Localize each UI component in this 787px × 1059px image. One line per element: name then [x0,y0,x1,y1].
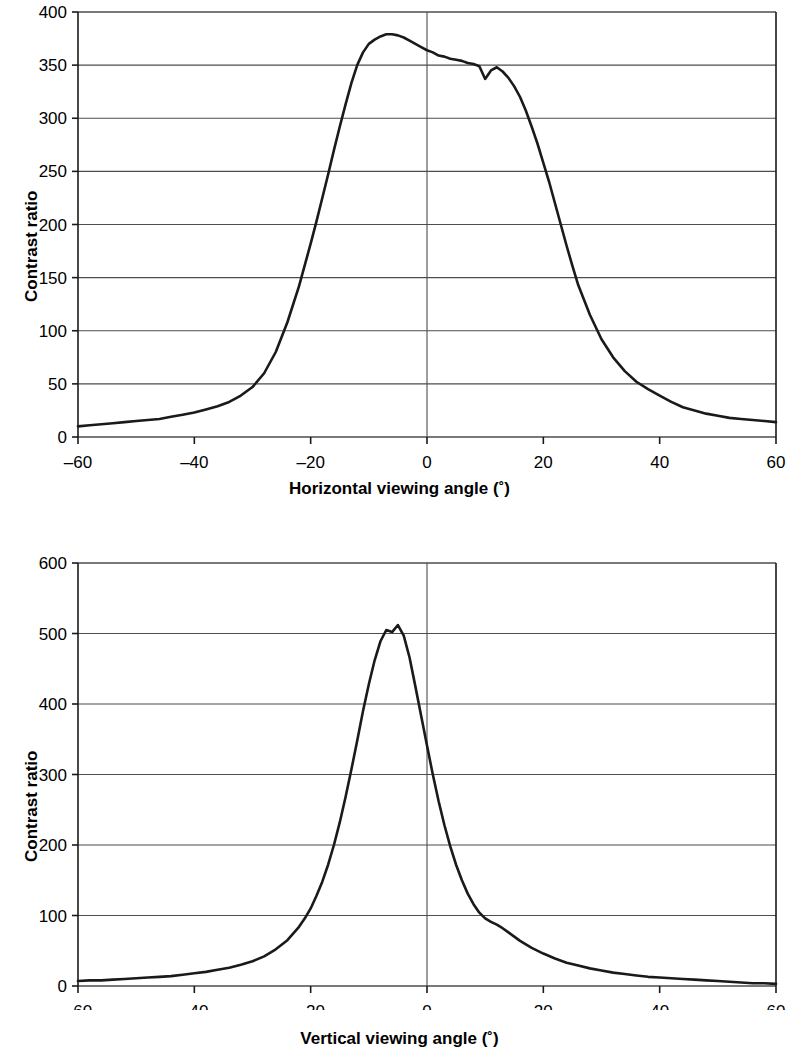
y-tick-label: 500 [39,625,67,644]
y-tick-label: 350 [39,56,67,75]
y-axis-title-container-top: Contrast ratio [0,0,34,512]
x-tick-label: 0 [422,1002,431,1010]
y-tick-label: 0 [58,428,67,447]
y-axis-title-container-bottom: Contrast ratio [0,540,34,1059]
y-tick-label: 100 [39,907,67,926]
y-tick-label: 300 [39,109,67,128]
y-tick-label: 200 [39,216,67,235]
y-tick-label: 150 [39,269,67,288]
x-axis-title-vertical: Vertical viewing angle (˚) [6,1029,787,1049]
x-tick-label: 20 [534,1002,553,1010]
x-tick-label: 20 [534,453,553,470]
x-tick-label: 40 [650,1002,669,1010]
y-tick-label: 300 [39,766,67,785]
chart-plot-vertical: 0100200300400500600–60–40–200204060 [0,540,787,1010]
x-tick-label: –60 [64,1002,92,1010]
y-axis-title-horizontal: Contrast ratio [22,191,42,302]
y-tick-label: 400 [39,3,67,22]
x-axis-title-horizontal: Horizontal viewing angle (˚) [6,479,787,499]
y-tick-label: 50 [48,375,67,394]
chart-plot-horizontal: 050100150200250300350400–60–40–200204060 [0,0,787,470]
x-tick-label: –40 [180,453,208,470]
chart-panel-horizontal: Contrast ratio 050100150200250300350400–… [0,0,787,512]
y-axis-title-vertical: Contrast ratio [22,751,42,862]
x-tick-label: 60 [767,453,786,470]
y-tick-label: 200 [39,836,67,855]
y-tick-label: 250 [39,162,67,181]
y-tick-label: 400 [39,695,67,714]
y-tick-label: 100 [39,322,67,341]
chart-panel-vertical: Contrast ratio 0100200300400500600–60–40… [0,540,787,1059]
x-tick-label: –60 [64,453,92,470]
x-tick-label: 60 [767,1002,786,1010]
x-tick-label: –20 [296,1002,324,1010]
x-tick-label: 40 [650,453,669,470]
x-tick-label: 0 [422,453,431,470]
y-tick-label: 0 [58,977,67,996]
x-tick-label: –40 [180,1002,208,1010]
viewing-angle-contrast-figure: Contrast ratio 050100150200250300350400–… [0,0,787,1059]
x-tick-label: –20 [296,453,324,470]
y-tick-label: 600 [39,554,67,573]
